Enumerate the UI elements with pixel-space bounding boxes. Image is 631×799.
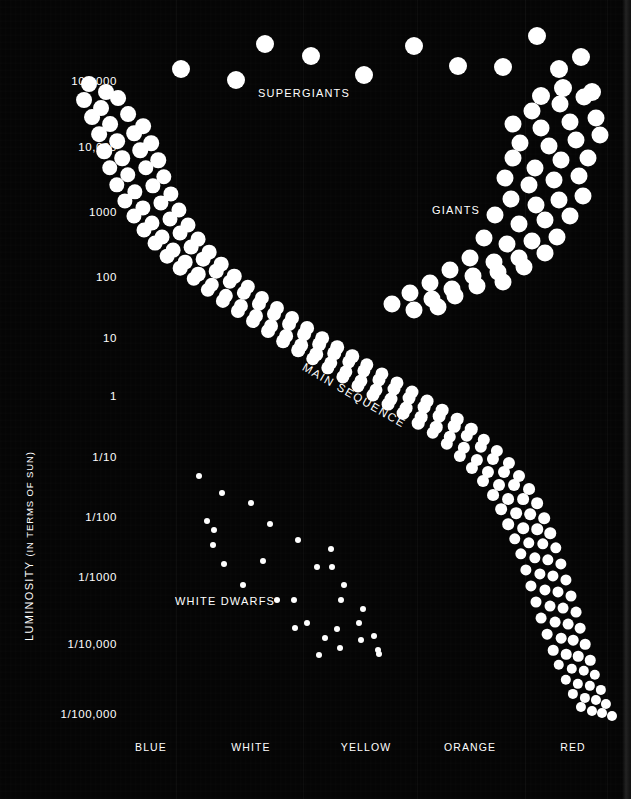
star-dot <box>304 620 310 626</box>
y-tick-label: 10 <box>103 333 117 345</box>
star-dot <box>358 637 364 643</box>
star-dot <box>562 208 579 225</box>
star-dot <box>568 132 585 149</box>
star-dot <box>591 695 601 705</box>
star-dot <box>162 211 177 226</box>
star-dot <box>587 706 597 716</box>
star-dot <box>553 152 570 169</box>
star-dot <box>590 670 600 680</box>
star-dot <box>571 168 588 185</box>
star-dot <box>209 264 224 279</box>
star-dot <box>487 489 499 501</box>
star-dot <box>548 645 559 656</box>
y-tick-label: 1000 <box>89 207 117 219</box>
star-dot <box>596 685 606 695</box>
star-dot <box>546 172 563 189</box>
star-dot <box>337 645 343 651</box>
star-dot <box>508 479 520 491</box>
star-dot <box>562 114 579 131</box>
star-dot <box>542 554 553 565</box>
x-tick-label: BLUE <box>135 742 167 753</box>
star-dot <box>173 226 188 241</box>
star-dot <box>477 475 489 487</box>
star-dot <box>302 47 320 65</box>
star-dot <box>585 681 595 691</box>
star-dot <box>520 564 531 575</box>
star-dot <box>187 272 201 286</box>
star-dot <box>117 193 132 208</box>
star-dot <box>510 507 522 519</box>
star-dot <box>499 236 516 253</box>
star-dot <box>267 521 273 527</box>
star-dot <box>328 546 334 552</box>
star-dot <box>360 606 366 612</box>
star-dot <box>497 170 514 187</box>
star-dot <box>580 639 591 650</box>
star-dot <box>556 633 567 644</box>
star-dot <box>246 314 260 328</box>
y-axis-title-sub: (IN TERMS OF SUN) <box>24 451 35 556</box>
star-dot <box>469 278 486 295</box>
star-dot <box>537 538 548 549</box>
y-axis-title-main: LUMINOSITY <box>23 561 35 641</box>
hr-diagram-figure: SUPERGIANTS GIANTS WHITE DWARFS MAIN SEQ… <box>0 0 631 799</box>
star-dot <box>454 450 466 462</box>
y-tick-label: 1 <box>110 391 117 403</box>
star-dot <box>441 438 453 450</box>
star-dot <box>531 523 543 535</box>
y-axis-ticks: 100,00010,00010001001011/101/1001/10001/… <box>0 0 117 799</box>
annotation-giants: GIANTS <box>432 205 480 216</box>
star-dot <box>132 142 148 158</box>
star-dot <box>538 512 550 524</box>
star-dot <box>145 178 160 193</box>
star-dot <box>573 651 584 662</box>
star-dot <box>528 27 546 45</box>
gridline-3 <box>525 0 526 799</box>
star-dot <box>341 582 347 588</box>
star-dot <box>545 601 556 612</box>
star-dot <box>536 613 547 624</box>
star-dot <box>148 236 163 251</box>
star-dot <box>292 625 298 631</box>
y-tick-label: 1/100 <box>85 512 117 524</box>
star-dot <box>314 564 320 570</box>
star-dot <box>406 302 423 319</box>
star-dot <box>542 629 553 640</box>
star-dot <box>219 490 225 496</box>
y-tick-label: 1/10,000 <box>67 639 117 651</box>
star-dot <box>537 212 554 229</box>
star-dot <box>172 60 190 78</box>
star-dot <box>524 508 536 520</box>
y-tick-label: 10,000 <box>78 142 117 154</box>
star-dot <box>572 48 590 66</box>
gridline-4 <box>607 0 608 799</box>
star-dot <box>503 191 520 208</box>
star-dot <box>534 568 545 579</box>
star-dot <box>371 633 377 639</box>
star-dot <box>160 249 175 264</box>
star-dot <box>412 417 425 430</box>
star-dot <box>549 229 566 246</box>
star-dot <box>531 497 543 509</box>
star-dot <box>502 518 514 530</box>
star-dot <box>585 655 596 666</box>
y-tick-label: 100,000 <box>71 76 117 88</box>
star-dot <box>338 597 344 603</box>
star-dot <box>588 110 605 127</box>
star-dot <box>516 259 533 276</box>
star-dot <box>211 527 217 533</box>
star-dot <box>184 240 199 255</box>
page-edge-shadow <box>622 0 631 799</box>
star-dot <box>126 208 141 223</box>
star-dot <box>555 558 566 569</box>
y-axis-title: LUMINOSITY (IN TERMS OF SUN) <box>23 431 35 661</box>
star-dot <box>498 466 510 478</box>
star-dot <box>575 188 592 205</box>
star-dot <box>405 37 423 55</box>
star-dot <box>295 537 301 543</box>
star-dot <box>120 106 136 122</box>
star-dot <box>138 160 153 175</box>
star-dot <box>223 275 237 289</box>
star-dot <box>476 230 493 247</box>
star-dot <box>607 711 617 721</box>
